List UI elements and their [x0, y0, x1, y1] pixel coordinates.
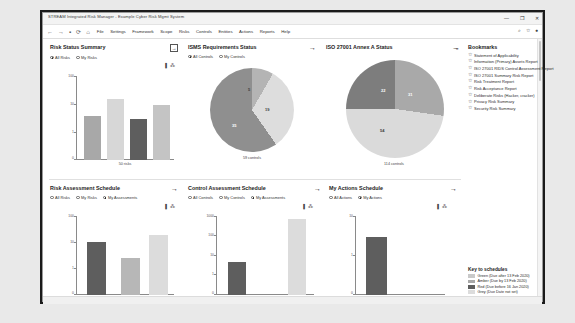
bar-grey[interactable]	[288, 219, 306, 295]
radio-my-risks[interactable]: My Risks	[76, 195, 97, 200]
bar-red[interactable]	[130, 119, 147, 160]
radio-my-assessments[interactable]: My Assessments	[251, 195, 285, 200]
radio-my-controls[interactable]: My Controls	[219, 54, 245, 59]
bar-green[interactable]	[84, 116, 101, 160]
my-actions-chart: 10 1 0 3 actions	[355, 216, 445, 295]
bookmark-item[interactable]: ☆Risk Acceptance Report	[468, 86, 540, 91]
search-icon[interactable]: ⌕	[518, 28, 521, 33]
menu-item-file[interactable]: File	[97, 29, 104, 34]
title-bar: STREAM Integrated Risk Manager - Example…	[43, 13, 542, 25]
bar-green[interactable]	[149, 235, 168, 295]
pie-isms[interactable]	[210, 68, 294, 152]
stop-icon[interactable]: ▪	[69, 29, 71, 35]
open-isms-button[interactable]: →	[309, 44, 316, 51]
key-row-green: Green (Due after 13 Feb 2020)	[468, 274, 540, 278]
bookmark-item[interactable]: ☆Statement of Applicability	[468, 53, 540, 58]
isms-filter-group: All Controls My Controls	[188, 54, 316, 59]
chart-type-icon[interactable]: ▐	[164, 205, 167, 210]
radio-my-controls[interactable]: My Controls	[219, 195, 245, 200]
radio-dot	[103, 196, 107, 200]
radio-all-controls[interactable]: All Controls	[188, 54, 213, 59]
pie-label-54: 54	[380, 128, 384, 133]
panel-tool-icons: ▐ ⁂	[164, 64, 175, 69]
chart-caption: 114 controls	[338, 162, 450, 166]
chart-type-icon[interactable]: ▐	[436, 205, 439, 210]
bookmark-star-icon[interactable]: ☆	[526, 28, 530, 33]
menu-item-framework[interactable]: Framework	[132, 29, 154, 34]
panel-header: Risk Status Summary →	[50, 44, 178, 52]
menu-item-controls[interactable]: Controls	[196, 29, 212, 34]
pin-icon[interactable]: ⁂	[442, 205, 447, 210]
open-my-actions-button[interactable]: →	[450, 185, 457, 192]
open-bookmarks-button[interactable]: →	[453, 44, 460, 51]
panel-header: My Actions Schedule →	[329, 185, 457, 192]
my-actions-filter-group: All Actions My Actions	[329, 195, 457, 200]
pin-icon[interactable]: ⁂	[170, 205, 175, 210]
open-risk-assessment-button[interactable]: →	[171, 185, 178, 192]
chart-type-icon[interactable]: ▐	[164, 64, 167, 69]
chart-caption: 50 risks	[76, 162, 174, 166]
bookmark-item[interactable]: ☆ISO 27001 Summary Risk Report	[468, 73, 540, 78]
radio-dot	[50, 56, 54, 60]
bookmark-item[interactable]: ☆Information (Primary) Assets Report	[468, 59, 540, 64]
home-icon[interactable]: ⌂	[86, 29, 90, 35]
maximize-icon[interactable]: ❐	[518, 16, 525, 21]
bar-red[interactable]	[87, 242, 106, 295]
key-label: Green (Due after 13 Feb 2020)	[478, 274, 530, 278]
menu-item-reports[interactable]: Reports	[260, 29, 275, 34]
open-control-assessment-button[interactable]: →	[314, 185, 321, 192]
star-icon: ☆	[468, 86, 472, 91]
bookmark-item[interactable]: ☆ISO 27001 RIDS Control Assessment Repor…	[468, 66, 540, 71]
menu-item-actions[interactable]: Actions	[239, 29, 253, 34]
bookmark-item[interactable]: ☆Risk Treatment Report	[468, 79, 540, 84]
pie-annexa[interactable]	[346, 60, 444, 158]
chart-caption: 59 controls	[202, 156, 302, 160]
pie-label-22: 22	[381, 88, 385, 93]
bar-amber[interactable]	[107, 99, 124, 160]
star-icon: ☆	[468, 106, 472, 111]
menu-item-settings[interactable]: Settings	[110, 29, 126, 34]
pin-icon[interactable]: ⁂	[308, 205, 313, 210]
bar-red[interactable]	[228, 262, 246, 295]
close-icon[interactable]: ✕	[533, 16, 540, 21]
bookmark-label: Privacy Risk Summary	[474, 99, 514, 104]
bar-amber[interactable]	[121, 258, 140, 295]
y-tick-1: 1	[60, 266, 74, 270]
chart-type-icon[interactable]: ▐	[302, 205, 305, 210]
bookmark-item[interactable]: ☆Deliberate Risks (Hacker, cracker)	[468, 93, 540, 98]
panel-isms-requirements-status: ISMS Requirements Status → All Controls …	[188, 44, 316, 171]
minimize-icon[interactable]: —	[503, 16, 510, 21]
menu-item-entities[interactable]: Entities	[218, 29, 232, 34]
bookmark-item[interactable]: ☆Privacy Risk Summary	[468, 99, 540, 104]
radio-label: My Actions	[363, 195, 382, 200]
panel-header: ISMS Requirements Status →	[188, 44, 316, 51]
page-title: Risk Assessment Schedule	[50, 185, 120, 191]
bar-grey[interactable]	[153, 105, 170, 160]
menu-item-scope[interactable]: Scope	[160, 29, 172, 34]
radio-all-risks[interactable]: All Risks	[50, 55, 70, 60]
radio-all-risks[interactable]: All Risks	[50, 195, 70, 200]
menu-item-risks[interactable]: Risks	[179, 29, 190, 34]
back-icon[interactable]: ←	[47, 29, 53, 35]
bookmarks-title: Bookmarks	[468, 44, 540, 50]
bookmark-item[interactable]: ☆Security Risk Summary	[468, 106, 540, 111]
forward-icon[interactable]: →	[58, 29, 64, 35]
radio-my-assessments[interactable]: My Assessments	[103, 195, 137, 200]
radio-label: All Controls	[193, 195, 213, 200]
refresh-icon[interactable]: ⟳	[76, 29, 81, 35]
radio-dot	[219, 55, 223, 59]
menu-item-help[interactable]: Help	[281, 29, 290, 34]
radio-my-risks[interactable]: My Risks	[76, 55, 97, 60]
pin-icon[interactable]: ⁂	[170, 64, 175, 69]
radio-all-controls[interactable]: All Controls	[188, 195, 213, 200]
page-title: My Actions Schedule	[329, 185, 383, 191]
radio-my-actions[interactable]: My Actions	[358, 195, 382, 200]
radio-all-actions[interactable]: All Actions	[329, 195, 352, 200]
isms-pie-chart: 5 19 35 59 controls	[202, 68, 302, 168]
open-risk-status-button[interactable]: →	[170, 44, 178, 52]
key-row-amber: Amber (Due by 13 Feb 2020)	[468, 279, 540, 283]
control-assessment-chart: 1000 100 10 1 0 780 control assessments	[216, 216, 314, 295]
profile-icon[interactable]: ●	[535, 28, 538, 33]
bar-red[interactable]	[366, 237, 387, 295]
star-icon: ☆	[468, 53, 472, 58]
